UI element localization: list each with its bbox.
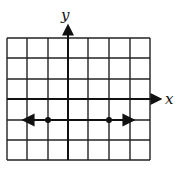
coordinate-plane: x y [0,0,182,170]
y-axis-label: y [60,6,70,24]
point-neg1-neg1 [45,117,51,123]
point-2-neg1 [106,117,112,123]
x-axis-label: x [165,90,174,108]
